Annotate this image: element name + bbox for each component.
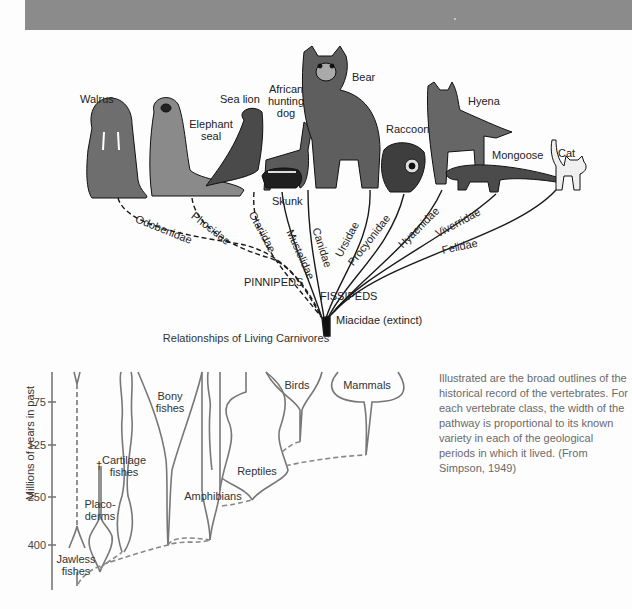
class-amphibians: Amphibians — [183, 490, 243, 502]
class-bony-fishes: Bonyfishes — [150, 390, 190, 414]
class-birds: Birds — [282, 379, 312, 391]
class-mammals: Mammals — [340, 379, 394, 391]
class-cartilage-fishes: Cartilagefishes — [100, 454, 148, 478]
class-reptiles: Reptiles — [234, 465, 280, 477]
y-tick-400: 400 — [16, 539, 46, 551]
class-jawless-fishes: Jawlessfishes — [56, 553, 96, 577]
class-placoderms: Placo-derms — [80, 498, 120, 522]
y-axis-label: Millions of years in past — [24, 363, 36, 523]
figure-description: Illustrated are the broad outlines of th… — [439, 371, 629, 476]
